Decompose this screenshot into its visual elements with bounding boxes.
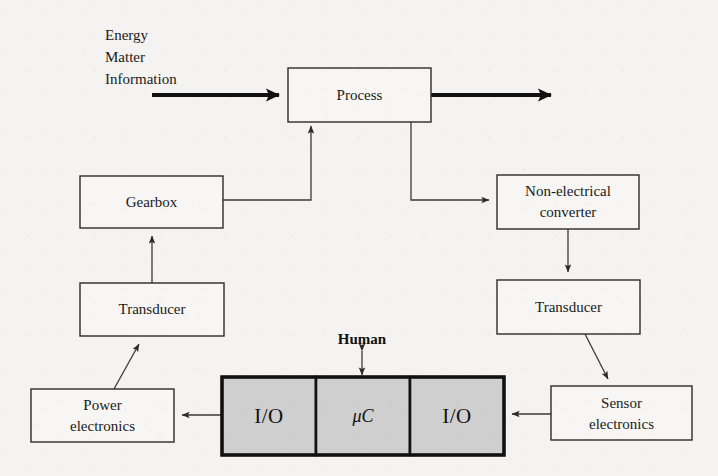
human-label: Human (338, 331, 387, 347)
box-non-electrical-converter-label-line1: Non-electrical (525, 183, 611, 199)
box-transducer-right-label: Transducer (535, 299, 602, 315)
box-non-electrical-converter[interactable]: Non-electrical converter (497, 175, 639, 229)
io-left-label: I/O (254, 404, 284, 428)
box-power-electronics[interactable]: Power electronics (31, 389, 174, 442)
box-transducer-left[interactable]: Transducer (80, 283, 224, 336)
microcontroller-label: μC (351, 406, 374, 426)
edge-gearbox-to-process (223, 126, 311, 200)
box-process[interactable]: Process (288, 68, 431, 122)
box-non-electrical-converter-label-line2: converter (540, 204, 597, 220)
box-gearbox-label: Gearbox (126, 194, 178, 210)
input-flow-line-energy: Energy (105, 27, 149, 43)
box-sensor-electronics-label-line1: Sensor (601, 395, 642, 411)
box-power-electronics-label-line2: electronics (70, 418, 135, 434)
edge-transducer-right-to-sensor-electronics (585, 334, 608, 379)
box-gearbox[interactable]: Gearbox (80, 176, 223, 228)
block-diagram: Process Gearbox Non-electrical converter… (0, 0, 718, 476)
box-transducer-left-label: Transducer (119, 301, 186, 317)
box-sensor-electronics[interactable]: Sensor electronics (551, 386, 692, 440)
io-right-label: I/O (442, 404, 472, 428)
box-transducer-right[interactable]: Transducer (497, 280, 640, 334)
controller-block: I/O μC I/O (222, 377, 504, 455)
input-flow-line-information: Information (105, 71, 177, 87)
box-process-label: Process (337, 87, 383, 103)
input-flow-line-matter: Matter (105, 49, 145, 65)
box-sensor-electronics-label-line2: electronics (589, 416, 654, 432)
diagram-canvas: Process Gearbox Non-electrical converter… (0, 0, 718, 476)
edge-process-to-converter (411, 122, 489, 200)
box-power-electronics-label-line1: Power (83, 397, 121, 413)
edge-power-electronics-to-transducer (114, 344, 139, 389)
